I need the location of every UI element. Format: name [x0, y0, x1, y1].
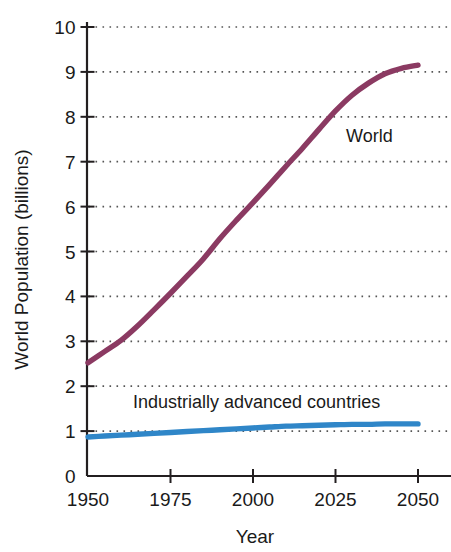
y-tick-label-7: 7 — [40, 153, 76, 172]
y-tick-label-8: 8 — [40, 108, 76, 127]
axis-ticks-group — [81, 27, 419, 483]
y-tick-label-6: 6 — [40, 198, 76, 217]
population-growth-chart: World Population (billions) Year World I… — [0, 0, 451, 552]
y-tick-label-4: 4 — [40, 287, 76, 306]
y-tick-label-10: 10 — [40, 18, 76, 37]
y-tick-label-5: 5 — [40, 243, 76, 262]
x-tick-label-2000: 2000 — [218, 490, 288, 509]
y-tick-label-2: 2 — [40, 377, 76, 396]
series-label-world: World — [346, 127, 393, 145]
y-tick-label-0: 0 — [40, 467, 76, 486]
x-tick-label-1975: 1975 — [136, 490, 206, 509]
y-tick-label-1: 1 — [40, 422, 76, 441]
x-tick-label-1950: 1950 — [53, 490, 123, 509]
series-line-world — [88, 65, 418, 363]
y-axis-title: World Population (billions) — [12, 135, 31, 385]
x-tick-label-2050: 2050 — [383, 490, 451, 509]
x-axis-title: Year — [180, 527, 330, 546]
y-tick-label-3: 3 — [40, 332, 76, 351]
series-label-industrially-advanced: Industrially advanced countries — [133, 393, 380, 411]
gridlines-group — [89, 27, 451, 431]
y-tick-label-9: 9 — [40, 63, 76, 82]
x-tick-label-2025: 2025 — [301, 490, 371, 509]
